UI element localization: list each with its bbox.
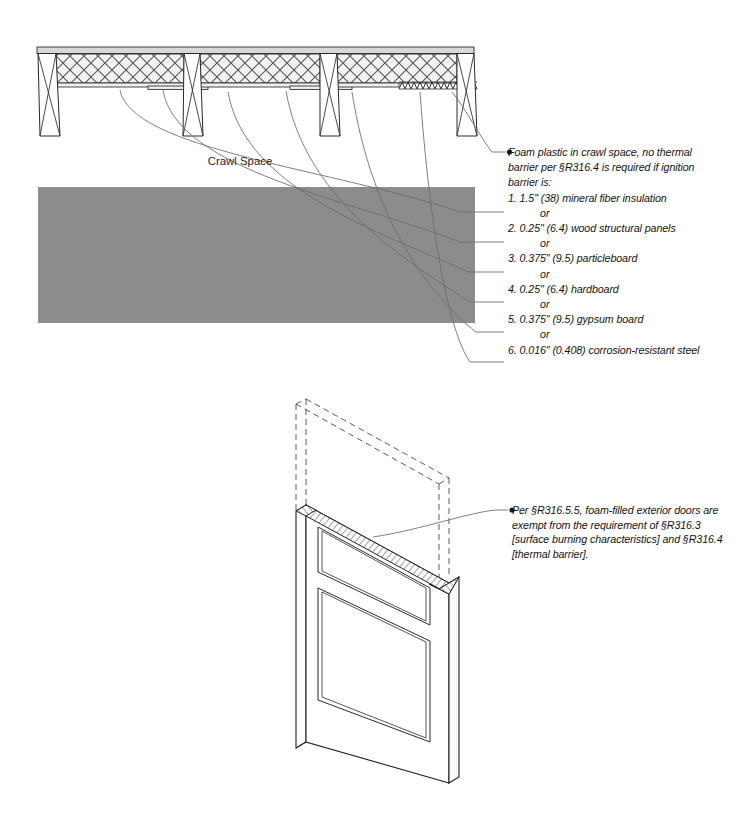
ignition-barrier-item-1: 1. 1.5" (38) mineral fiber insulation bbox=[508, 191, 740, 206]
door-note-line-2: exempt from the requirement of §R316.3 bbox=[512, 518, 738, 533]
joist-bay-insulation-1 bbox=[56, 54, 184, 83]
door-annotation-block: Per §R316.5.5, foam-filled exterior door… bbox=[512, 503, 738, 561]
or-separator-2: or bbox=[508, 236, 740, 251]
support-post-2 bbox=[183, 54, 203, 137]
crawl-note-intro-line-3: barrier is: bbox=[508, 175, 740, 190]
crawl-space-annotation-block: Foam plastic in crawl space, no thermal … bbox=[508, 145, 740, 358]
or-separator-3: or bbox=[508, 267, 740, 282]
or-separator-1: or bbox=[508, 206, 740, 221]
crawl-note-intro-line-1: Foam plastic in crawl space, no thermal bbox=[508, 145, 740, 160]
crawl-note-intro-line-2: barrier per §R316.4 is required if ignit… bbox=[508, 160, 740, 175]
floor-joist-assembly bbox=[37, 47, 477, 136]
door-left-stile bbox=[296, 505, 306, 748]
door-note-line-3: [surface burning characteristics] and §R… bbox=[512, 532, 738, 547]
ignition-barrier-item-4: 4. 0.25" (6.4) hardboard bbox=[508, 282, 740, 297]
ignition-barrier-item-6: 6. 0.016" (0.408) corrosion-resistant st… bbox=[508, 343, 740, 358]
exterior-door-assembly bbox=[296, 399, 459, 783]
or-separator-4: or bbox=[508, 297, 740, 312]
leader-line-door-note bbox=[373, 510, 508, 537]
subfloor-deck bbox=[37, 47, 474, 54]
joist-bay-insulation-2 bbox=[200, 54, 320, 83]
door-right-edge bbox=[449, 577, 459, 783]
door-note-line-4: [thermal barrier]. bbox=[512, 547, 738, 562]
ignition-barrier-item-2: 2. 0.25" (6.4) wood structural panels bbox=[508, 221, 740, 236]
door-note-line-1: Per §R316.5.5, foam-filled exterior door… bbox=[512, 503, 738, 518]
or-separator-5: or bbox=[508, 327, 740, 342]
joist-bay-insulation-3 bbox=[337, 54, 457, 83]
support-post-1 bbox=[38, 54, 60, 137]
support-post-3 bbox=[320, 54, 340, 137]
crawl-space-label: Crawl Space bbox=[170, 155, 310, 167]
ignition-barrier-item-5: 5. 0.375" (9.5) gypsum board bbox=[508, 312, 740, 327]
support-post-4 bbox=[457, 54, 477, 137]
technical-illustration-page: Crawl Space Foam plastic in crawl space,… bbox=[0, 0, 746, 813]
ignition-barrier-item-3: 3. 0.375" (9.5) particleboard bbox=[508, 251, 740, 266]
drawing-canvas bbox=[0, 0, 746, 813]
